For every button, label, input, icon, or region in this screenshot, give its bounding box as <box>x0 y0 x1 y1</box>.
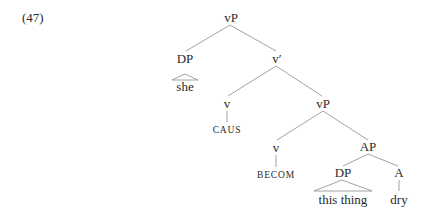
node-v-caus: v <box>224 96 231 112</box>
node-dp-spec: DP <box>177 51 194 67</box>
node-v-becom: v <box>273 140 280 156</box>
node-vp-inner: vP <box>316 96 330 112</box>
tree-branches <box>0 0 428 214</box>
leaf-caus: CAUS <box>213 125 242 135</box>
leaf-becom: BECOM <box>257 170 295 180</box>
node-vp-root: vP <box>224 10 238 26</box>
node-a-head: A <box>394 165 403 181</box>
node-dp-ap: DP <box>335 165 352 181</box>
node-v-bar: v′ <box>272 51 281 67</box>
leaf-she: she <box>176 79 193 95</box>
node-ap: AP <box>360 139 377 155</box>
leaf-this-thing: this thing <box>319 192 368 208</box>
leaf-dry: dry <box>390 192 407 208</box>
